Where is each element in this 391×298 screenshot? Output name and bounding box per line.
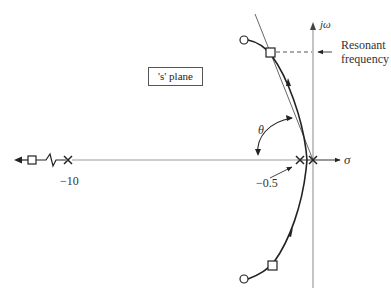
axis-break-icon	[36, 154, 66, 166]
resonant-label-line1: Resonant	[341, 39, 386, 52]
imag-axis-label: jω	[320, 18, 331, 31]
resonant-label-line2: frequency	[341, 53, 389, 66]
left-arrow-icon	[14, 157, 22, 164]
root-locus-diagram	[0, 0, 391, 298]
zero-circle-top	[240, 36, 248, 44]
pole-label-near: −0.5	[256, 177, 278, 190]
closed-loop-pole-square-bottom	[268, 261, 277, 270]
closed-loop-pole-square	[28, 156, 36, 164]
real-axis	[14, 154, 340, 166]
angle-label: θ	[258, 124, 264, 137]
s-plane-label: 's' plane	[148, 67, 203, 86]
closed-loop-pole-square-top	[266, 48, 275, 57]
zero-circle-bottom	[240, 275, 248, 283]
pole-label-far: −10	[60, 175, 79, 188]
real-axis-label: σ	[344, 153, 350, 166]
